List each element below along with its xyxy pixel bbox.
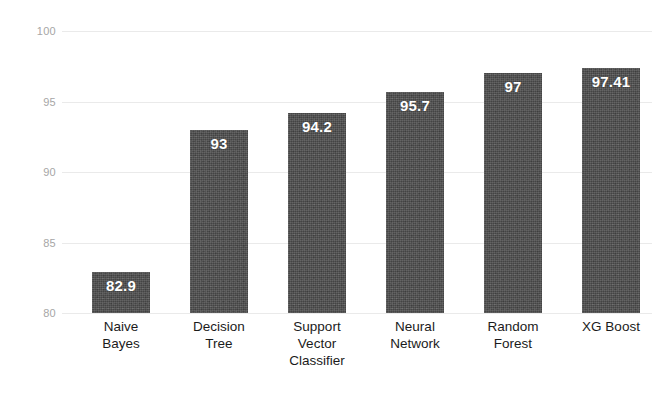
x-tick-label-support-vector-classifier: Support Vector Classifier <box>269 318 365 369</box>
x-tick-line: Naive <box>73 318 169 335</box>
bar-value-label: 97.41 <box>582 73 640 90</box>
bar-series: 82.9 93 94.2 95.7 97 97.41 <box>62 0 652 313</box>
x-tick-line: Support <box>269 318 365 335</box>
x-tick-line: Classifier <box>269 352 365 369</box>
x-tick-line: Decision <box>171 318 267 335</box>
y-tick-label: 85 <box>16 237 56 249</box>
x-tick-label-naive-bayes: Naive Bayes <box>73 318 169 352</box>
bar-naive-bayes[interactable]: 82.9 <box>92 272 150 313</box>
x-tick-line: Neural <box>367 318 463 335</box>
x-tick-label-random-forest: Random Forest <box>465 318 561 352</box>
bar-support-vector-classifier[interactable]: 94.2 <box>288 113 346 313</box>
x-tick-line: Vector <box>269 335 365 352</box>
x-axis: Naive Bayes Decision Tree Support Vector… <box>62 318 652 398</box>
y-tick-label: 80 <box>16 307 56 319</box>
x-tick-label-xg-boost: XG Boost <box>563 318 659 335</box>
bar-value-label: 95.7 <box>386 97 444 114</box>
x-tick-line: Random <box>465 318 561 335</box>
x-tick-label-decision-tree: Decision Tree <box>171 318 267 352</box>
gridline-80 <box>62 313 652 314</box>
y-tick-label: 95 <box>16 96 56 108</box>
x-tick-line: XG Boost <box>563 318 659 335</box>
x-tick-label-neural-network: Neural Network <box>367 318 463 352</box>
y-tick-label: 100 <box>16 25 56 37</box>
bar-value-label: 82.9 <box>92 277 150 294</box>
bar-value-label: 94.2 <box>288 118 346 135</box>
bar-value-label: 93 <box>190 135 248 152</box>
x-tick-line: Forest <box>465 335 561 352</box>
bar-decision-tree[interactable]: 93 <box>190 130 248 313</box>
x-tick-line: Bayes <box>73 335 169 352</box>
bar-value-label: 97 <box>484 78 542 95</box>
bar-xg-boost[interactable]: 97.41 <box>582 68 640 313</box>
x-tick-line: Network <box>367 335 463 352</box>
bar-neural-network[interactable]: 95.7 <box>386 92 444 313</box>
y-tick-label: 90 <box>16 166 56 178</box>
bar-random-forest[interactable]: 97 <box>484 73 542 313</box>
bar-chart: 100 95 90 85 80 82.9 93 94.2 95.7 97 97.… <box>0 0 662 403</box>
x-tick-line: Tree <box>171 335 267 352</box>
